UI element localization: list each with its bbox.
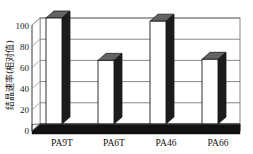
plot-floor <box>32 124 240 131</box>
y-tick-label-100: 100 <box>16 21 30 31</box>
chart-figure: 100 80 60 40 20 0 结晶速率(相对值) <box>0 0 253 154</box>
bar-side-face-pa6t <box>114 53 122 124</box>
x-tick-label-pa66: PA66 <box>208 138 229 148</box>
y-tick-label-0: 0 <box>25 126 30 136</box>
bar-side-face-pa9t <box>62 11 70 124</box>
plot-floor-band <box>32 131 240 134</box>
bar-group-pa46[interactable] <box>150 14 174 124</box>
y-tick-label-20: 20 <box>20 105 30 115</box>
y-tick-label-60: 60 <box>20 63 30 73</box>
y-axis-title-text: 结晶速率(相对值) <box>4 40 15 110</box>
x-tick-label-pa6t: PA6T <box>103 138 125 148</box>
bar-group-pa66[interactable] <box>202 52 226 124</box>
plot-left-wall <box>32 18 40 131</box>
bar-front-face-pa46 <box>150 21 166 124</box>
bar-group-pa9t[interactable] <box>46 11 70 124</box>
y-tick-label-40: 40 <box>20 84 30 94</box>
y-tick-label-80: 80 <box>20 42 30 52</box>
bar-group-pa6t[interactable] <box>98 53 122 124</box>
x-tick-label-pa9t: PA9T <box>51 138 73 148</box>
bar-front-face-pa6t <box>98 60 114 124</box>
bar-side-face-pa66 <box>218 52 226 124</box>
x-tick-label-pa46: PA46 <box>156 138 177 148</box>
bar-side-face-pa46 <box>166 14 174 124</box>
bar-front-face-pa66 <box>202 59 218 124</box>
y-axis-title: 结晶速率(相对值) <box>4 40 15 110</box>
bar-front-face-pa9t <box>46 18 62 124</box>
bar-chart-svg: 100 80 60 40 20 0 结晶速率(相对值) <box>0 0 253 154</box>
